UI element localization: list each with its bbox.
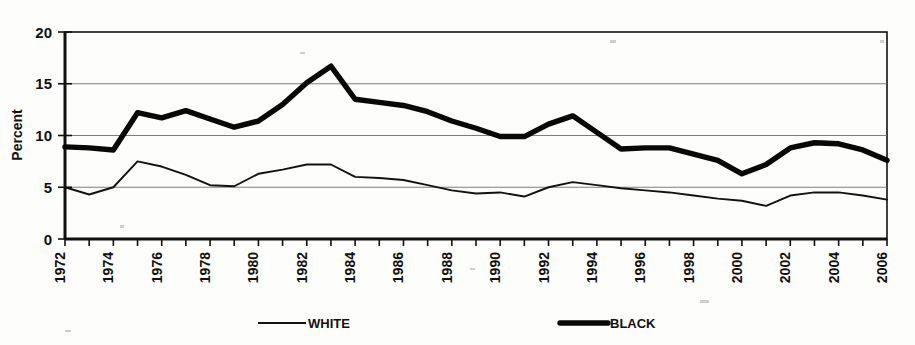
x-tick-label-1976: 1976 [149, 252, 165, 283]
gridlines [65, 84, 887, 188]
x-tick-label-1994: 1994 [584, 252, 600, 283]
chart-figure: 0 5 10 15 20 Percent 1972197419761978198… [0, 0, 915, 345]
x-axis-labels: 1972197419761978198019821984198619881990… [52, 252, 890, 283]
x-tick-label-1980: 1980 [245, 252, 261, 283]
x-tick-label-1988: 1988 [439, 252, 455, 283]
x-tick-label-1982: 1982 [294, 252, 310, 283]
legend-entry-white: WHITE [258, 316, 350, 331]
x-tick-label-1978: 1978 [197, 252, 213, 283]
legend-entry-black: BLACK [560, 316, 656, 331]
x-tick-label-1974: 1974 [100, 252, 116, 283]
x-tick-label-1984: 1984 [342, 252, 358, 283]
line-chart-svg: 0 5 10 15 20 Percent 1972197419761978198… [0, 0, 915, 345]
y-tick-5: 5 [44, 179, 52, 196]
x-tick-label-1972: 1972 [52, 252, 68, 283]
x-tick-label-2000: 2000 [729, 252, 745, 283]
series-line-black [65, 66, 887, 174]
data-series-layer [65, 66, 887, 206]
x-tick-label-2002: 2002 [777, 252, 793, 283]
y-tick-20: 20 [35, 24, 52, 41]
y-axis: 0 5 10 15 20 Percent [9, 24, 72, 248]
x-tick-label-1996: 1996 [632, 252, 648, 283]
legend-label-black: BLACK [610, 316, 656, 331]
legend-label-white: WHITE [308, 316, 350, 331]
chart-legend: WHITE BLACK [258, 316, 656, 331]
x-tick-label-1990: 1990 [487, 252, 503, 283]
x-tick-label-1998: 1998 [681, 252, 697, 283]
y-tick-15: 15 [35, 75, 52, 92]
y-tick-10: 10 [35, 127, 52, 144]
x-tick-label-1986: 1986 [390, 252, 406, 283]
y-tick-0: 0 [44, 231, 52, 248]
x-tick-label-1992: 1992 [536, 252, 552, 283]
y-axis-label: Percent [9, 109, 25, 161]
x-tick-label-2006: 2006 [874, 252, 890, 283]
x-tick-label-2004: 2004 [826, 252, 842, 283]
